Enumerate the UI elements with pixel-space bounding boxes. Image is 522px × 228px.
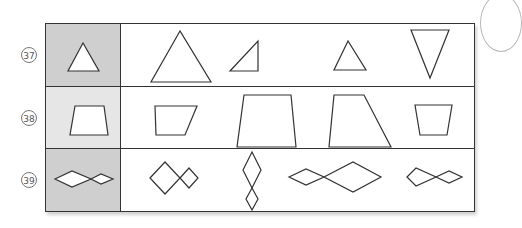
question-row-38: 38: [46, 86, 474, 149]
option-rhombus-medium-left-icon[interactable]: [407, 168, 436, 186]
option-rhombus-small-left-icon[interactable]: [289, 169, 324, 185]
page-corner-decoration: [480, 0, 522, 52]
option-right-trapezoid-icon[interactable]: [329, 95, 391, 147]
option-vertical-rhombus-top-icon[interactable]: [243, 152, 261, 188]
option-large-trapezoid-icon[interactable]: [237, 95, 296, 147]
option-rhombus-medium-right-icon[interactable]: [436, 171, 462, 183]
option-inverted-triangle-icon[interactable]: [411, 30, 449, 78]
option-vertical-rhombus-bottom-icon[interactable]: [246, 188, 258, 210]
option-small-triangle-icon[interactable]: [334, 41, 366, 70]
question-number-37: 37: [21, 47, 37, 63]
option-slanted-quadrilateral-icon[interactable]: [155, 106, 197, 135]
option-large-triangle-icon[interactable]: [151, 31, 211, 82]
option-shapes-39: [46, 149, 476, 211]
question-row-39: 39: [46, 148, 474, 211]
option-right-triangle-icon[interactable]: [230, 41, 258, 71]
option-rhombus-large-right-icon[interactable]: [324, 162, 381, 192]
option-shapes-38: [46, 87, 476, 149]
question-number-39: 39: [21, 172, 37, 188]
question-number-38: 38: [21, 110, 37, 126]
option-shapes-37: [46, 24, 476, 86]
shape-matching-table: 37 38 39: [45, 23, 475, 212]
option-double-square-right-icon[interactable]: [180, 168, 198, 188]
option-small-trapezoid-icon[interactable]: [415, 105, 452, 135]
option-double-square-left-icon[interactable]: [150, 162, 180, 194]
question-row-37: 37: [46, 24, 474, 87]
